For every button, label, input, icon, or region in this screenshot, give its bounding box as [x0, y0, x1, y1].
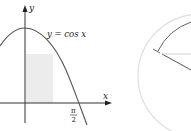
curve-label: y = cos x — [46, 29, 86, 39]
figure-canvas: y x y = cos x π 2 — [0, 0, 191, 131]
tick-label-two: 2 — [72, 116, 76, 124]
y-axis-arrow-icon — [23, 5, 28, 12]
y-axis-label: y — [28, 3, 35, 13]
x-axis-arrow-icon — [105, 101, 112, 106]
inner-circle — [138, 14, 191, 131]
circle-diagram — [138, 14, 191, 131]
tick-label-pi: π — [71, 107, 76, 115]
x-axis-label: x — [103, 91, 108, 101]
shaded-region — [26, 54, 53, 103]
radius-line-dark — [162, 54, 191, 70]
cosine-graph: y x y = cos x π 2 — [0, 3, 112, 125]
